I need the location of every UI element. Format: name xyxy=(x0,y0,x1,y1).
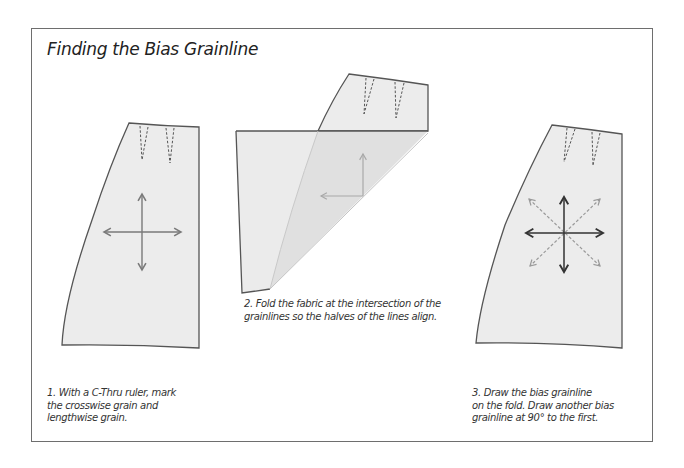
step3-caption-line: on the fold. Draw another bias xyxy=(472,400,614,413)
skirt-upper-outline xyxy=(318,74,428,131)
step3-caption-line: grainline at 90° to the first. xyxy=(472,412,614,425)
step1-caption: 1. With a C-Thru ruler, mark the crosswi… xyxy=(47,387,176,425)
skirt-outline xyxy=(62,123,199,348)
skirt-figure-step3 xyxy=(476,125,622,348)
step3-caption-line: 3. Draw the bias grainline xyxy=(472,387,614,400)
step2-caption: 2. Fold the fabric at the intersection o… xyxy=(244,298,441,323)
step1-caption-line: 1. With a C-Thru ruler, mark xyxy=(47,387,176,400)
step2-caption-line: grainlines so the halves of the lines al… xyxy=(244,311,441,324)
skirt-outline xyxy=(476,125,622,348)
step2-caption-line: 2. Fold the fabric at the intersection o… xyxy=(244,298,441,311)
step1-caption-line: lengthwise grain. xyxy=(47,412,176,425)
skirt-figure-step2 xyxy=(236,74,428,293)
step1-caption-line: the crosswise grain and xyxy=(47,400,176,413)
step3-caption: 3. Draw the bias grainline on the fold. … xyxy=(472,387,614,425)
skirt-figure-step1 xyxy=(62,123,199,348)
